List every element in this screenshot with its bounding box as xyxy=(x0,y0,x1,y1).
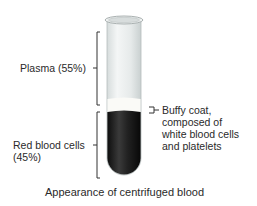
rbc-bracket xyxy=(93,112,100,178)
buffy-bracket xyxy=(149,107,159,113)
plasma-label: Plasma (55%) xyxy=(20,62,86,74)
buffy-label-line4: and platelets xyxy=(162,140,222,152)
buffy-label-line2: composed of xyxy=(162,116,222,128)
rbc-label-line2: (45%) xyxy=(13,151,41,163)
buffy-label-line3: white blood cells xyxy=(162,128,239,140)
rbc-layer xyxy=(107,111,140,175)
test-tube xyxy=(105,16,143,175)
centrifuged-tube-diagram xyxy=(0,0,257,206)
buffy-coat-layer xyxy=(107,98,140,113)
buffy-label-line1: Buffy coat, xyxy=(162,104,211,116)
figure-caption: Appearance of centrifuged blood xyxy=(45,186,204,198)
plasma-bracket xyxy=(93,32,100,105)
rbc-label-line1: Red blood cells xyxy=(13,139,85,151)
